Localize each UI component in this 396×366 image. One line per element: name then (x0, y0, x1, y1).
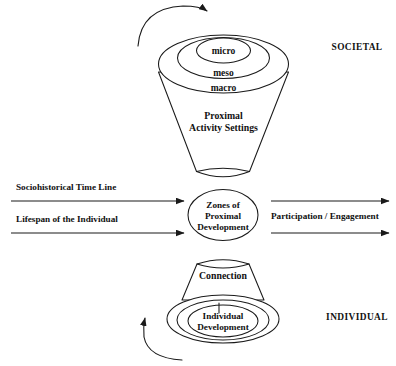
ring-label-micro: micro (212, 46, 236, 56)
side-label-societal: SOCIETAL (332, 42, 383, 52)
ring-label-meso: meso (213, 68, 234, 78)
top-cone-group: micro meso macro Proximal Activity Setti… (159, 35, 289, 177)
right-axes-group: Participation / Engagement (271, 201, 389, 233)
individual-ring-inner (188, 305, 258, 337)
left-axis-label-sociohistorical: Sociohistorical Time Line (16, 182, 116, 192)
bottom-cone-label: Connection (199, 270, 247, 281)
side-label-individual: INDIVIDUAL (326, 312, 388, 322)
center-label-line2: Proximal (205, 211, 242, 221)
individual-label-line1: Individual (203, 311, 244, 321)
individual-label-line2: Development (197, 322, 249, 332)
center-node-group: Zones of Proximal Development (188, 190, 258, 241)
left-axis-label-lifespan: Lifespan of the Individual (16, 214, 118, 224)
zpd-diagram: micro meso macro Proximal Activity Setti… (0, 0, 396, 366)
center-label-line1: Zones of (206, 200, 240, 210)
center-label-line3: Development (197, 222, 249, 232)
ring-label-macro: macro (211, 83, 237, 93)
bottom-cone-group: Connection Individual Development (167, 260, 279, 343)
top-cone-bottom-arc (197, 172, 250, 177)
right-axis-label-participation: Participation / Engagement (271, 211, 380, 221)
left-axes-group: Sociohistorical Time Line Lifespan of th… (11, 182, 184, 233)
diagram-canvas: micro meso macro Proximal Activity Setti… (0, 0, 396, 366)
top-cone-label-line1: Proximal (204, 110, 243, 121)
top-cone-label-line2: Activity Settings (189, 122, 258, 133)
